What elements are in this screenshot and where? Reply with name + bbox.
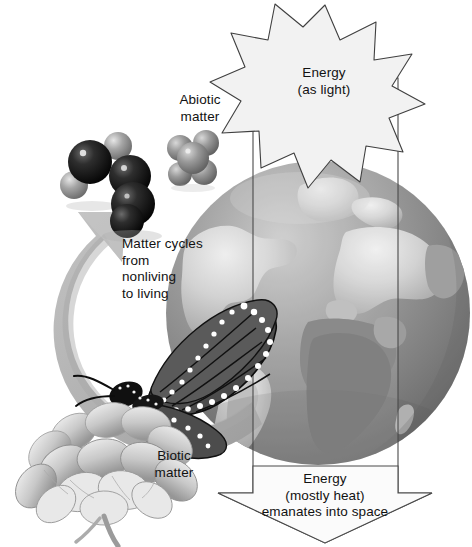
matter-cycles-label: Matter cycles from nonliving to living: [122, 236, 218, 302]
energy-mostly-heat-label: Energy (mostly heat) emanates into space: [252, 471, 398, 521]
energy-as-light-label: Energy (as light): [271, 65, 377, 98]
biotic-matter-label: Biotic matter: [140, 448, 208, 481]
ecosystem-energy-matter-diagram: Energy (as light) Abiotic matter Matter …: [0, 0, 472, 547]
abiotic-matter-label: Abiotic matter: [164, 92, 236, 125]
diagram-canvas: [0, 0, 472, 547]
methane-molecule: [167, 130, 219, 192]
